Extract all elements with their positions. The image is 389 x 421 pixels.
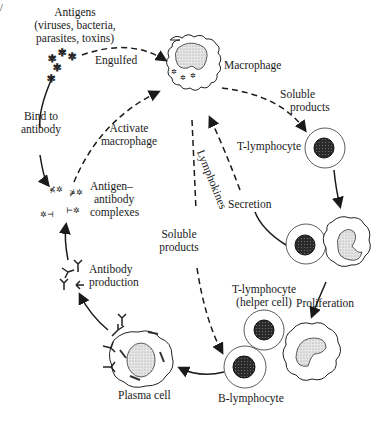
soluble-products-center-label: Soluble products bbox=[158, 228, 200, 254]
svg-text:⊢✲: ⊢✲ bbox=[66, 206, 80, 215]
antibody-production-line1: Antibody bbox=[89, 263, 139, 276]
svg-text:✲⊣: ✲⊣ bbox=[40, 210, 54, 219]
plasma-cell-icon bbox=[109, 331, 173, 387]
t-helper-cell-icon bbox=[244, 310, 284, 350]
proliferating-cells-icon bbox=[286, 217, 370, 267]
svg-text:✲: ✲ bbox=[53, 62, 61, 73]
plasma-cell-label: Plasma cell bbox=[118, 389, 171, 402]
proliferation-label: Proliferation bbox=[296, 297, 354, 310]
t-helper-line1: T-lymphocyte bbox=[226, 283, 302, 296]
arrow-secretion bbox=[255, 212, 286, 245]
activate-line1: Activate bbox=[100, 122, 158, 135]
soluble-right-line1: Soluble bbox=[280, 88, 330, 101]
immune-response-diagram: ✲ ✲ ✲ ✲ ✲ ✲ ✲ ✲ bbox=[0, 0, 389, 421]
antigens-label: Antigens (viruses, bacteria, parasites, … bbox=[30, 6, 120, 45]
arrow-t-to-proliferation bbox=[334, 170, 340, 206]
svg-text:⋡✲: ⋡✲ bbox=[69, 188, 83, 197]
soluble-products-right-label: Soluble products bbox=[280, 88, 330, 114]
complexes-line1: Antigen– bbox=[90, 180, 139, 193]
b-lymphocyte-cell-icon bbox=[224, 346, 266, 388]
t-lymphocyte-label: T-lymphocyte bbox=[237, 140, 301, 153]
macrophage-bottom-cell-icon bbox=[283, 323, 341, 381]
t-helper-label: T-lymphocyte (helper cell) bbox=[226, 283, 302, 309]
arrow-antibody-to-complexes bbox=[65, 225, 68, 260]
arrow-plasma-to-antibody bbox=[80, 295, 108, 330]
arrow-b-to-plasma bbox=[180, 368, 224, 374]
soluble-center-line2: products bbox=[158, 241, 200, 254]
b-lymphocyte-label: B-lymphocyte bbox=[218, 392, 284, 405]
activate-macrophage-label: Activate macrophage bbox=[100, 122, 158, 148]
svg-text:✲: ✲ bbox=[171, 68, 177, 76]
t-lymphocyte-cell-icon bbox=[305, 128, 345, 168]
bind-to-antibody-label: Bind to antibody bbox=[18, 110, 64, 136]
activate-line2: macrophage bbox=[100, 135, 158, 148]
svg-text:✲: ✲ bbox=[190, 72, 196, 80]
complexes-label: Antigen– antibody complexes bbox=[90, 180, 139, 219]
t-helper-line2: (helper cell) bbox=[226, 296, 302, 309]
antibody-production-label: Antibody production bbox=[89, 263, 139, 289]
soluble-center-line1: Soluble bbox=[158, 228, 200, 241]
antigens-line3: parasites, toxins) bbox=[30, 32, 120, 45]
bind-line1: Bind to bbox=[18, 110, 64, 123]
secretion-label: Secretion bbox=[228, 198, 271, 211]
svg-text:✲: ✲ bbox=[68, 51, 76, 62]
svg-text:✲: ✲ bbox=[180, 74, 186, 82]
macrophage-cell-icon: ✲ ✲ ✲ bbox=[167, 35, 221, 91]
antibody-production-line2: production bbox=[89, 276, 139, 289]
svg-text:✲: ✲ bbox=[58, 47, 66, 58]
corner-mark: / bbox=[0, 2, 3, 13]
bind-line2: antibody bbox=[18, 123, 64, 136]
antigens-line2: (viruses, bacteria, bbox=[30, 19, 120, 32]
complexes-line2: antibody bbox=[90, 193, 139, 206]
macrophage-label: Macrophage bbox=[224, 59, 281, 72]
antigen-antibody-complex-icons: ⋠✲ ⋡✲ ✲⊣ ⊢✲ bbox=[40, 185, 83, 219]
engulfed-label: Engulfed bbox=[95, 54, 137, 67]
antigens-title: Antigens bbox=[30, 6, 120, 19]
arrow-soluble-products-center bbox=[192, 120, 196, 210]
svg-text:⋠✲: ⋠✲ bbox=[49, 185, 63, 194]
soluble-right-line2: products bbox=[280, 101, 330, 114]
complexes-line3: complexes bbox=[90, 206, 139, 219]
